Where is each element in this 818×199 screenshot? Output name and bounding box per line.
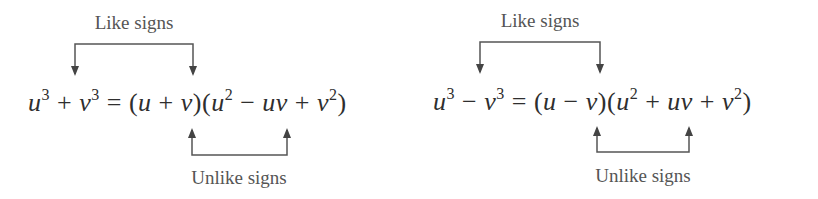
like-sign-operator: +	[152, 88, 181, 117]
unlike-signs-bracket-left	[188, 128, 291, 155]
unlike-sign-operator: −	[233, 88, 262, 117]
like-signs-bracket-right	[476, 42, 604, 74]
operator: −	[455, 87, 484, 116]
equals-sign: =	[100, 88, 129, 117]
unlike-signs-label-left: Unlike signs	[191, 167, 287, 189]
sum-of-cubes-equation: u3+v3=(u+v)(u2−uv+v2)	[28, 88, 347, 118]
like-signs-label-left: Like signs	[95, 12, 174, 34]
like-signs-label-right: Like signs	[501, 10, 580, 32]
unlike-signs-bracket-right	[593, 126, 693, 152]
var-u: u	[28, 88, 42, 117]
unlike-signs-label-right: Unlike signs	[595, 165, 691, 187]
like-sign-operator: −	[557, 87, 586, 116]
like-signs-bracket-left	[71, 44, 197, 76]
unlike-sign-operator: +	[638, 87, 667, 116]
operator: +	[50, 88, 79, 117]
difference-of-cubes-equation: u3−v3=(u−v)(u2+uv+v2)	[433, 87, 752, 117]
equals-sign: =	[505, 87, 534, 116]
